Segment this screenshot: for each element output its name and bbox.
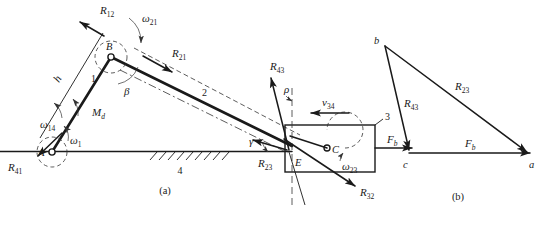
- omega-14-label: ω14: [40, 118, 56, 133]
- ground-hatching: [150, 152, 229, 160]
- link-1-label: 1: [91, 73, 96, 84]
- triangle-R23-label: R23: [454, 80, 469, 95]
- moment-Md-label: Md: [91, 106, 105, 121]
- joint-A-label: A: [37, 147, 45, 158]
- link-2-coupler: [111, 57, 292, 146]
- dimension-h-label: h: [51, 73, 64, 84]
- omega-21-label: ω21: [142, 12, 158, 27]
- force-R32-label: R32: [359, 186, 374, 201]
- velocity-v34-label: v34: [322, 96, 335, 111]
- force-R23-label: R23: [257, 157, 272, 172]
- beta-angle-label: β: [123, 85, 130, 97]
- omega-1-label: ω1: [70, 134, 82, 149]
- link-3-leader: [375, 119, 383, 125]
- omega-14-arrow: [54, 103, 62, 118]
- gamma-angle-label: γ: [249, 135, 254, 147]
- joint-A: [49, 149, 55, 155]
- force-Fb-label: Fb: [386, 133, 398, 148]
- triangle-vertex-a: a: [529, 159, 534, 170]
- triangle-vertex-b: b: [374, 35, 379, 46]
- rho-angle-arc: [286, 96, 292, 101]
- rho-angle-label: ρ: [283, 83, 289, 95]
- force-R21-arrow: [143, 56, 172, 72]
- link-4-label: 4: [178, 165, 183, 176]
- joint-C-label: C: [332, 144, 340, 155]
- joint-E-label: E: [294, 157, 302, 168]
- figure-canvas: 4 R12 R41 R21 B A: [0, 0, 550, 231]
- force-R41-label: R41: [7, 161, 22, 176]
- omega-21-arc: [95, 18, 141, 73]
- triangle-R43-label: R43: [403, 97, 418, 112]
- joint-B-label: B: [106, 41, 113, 52]
- link-2-label: 2: [202, 87, 207, 98]
- triangle-vertex-c: c: [403, 159, 408, 170]
- caption-a: (a): [159, 185, 171, 197]
- mechanism-force-diagram: 4 R12 R41 R21 B A: [0, 0, 550, 231]
- force-R12-arrow: [80, 22, 104, 36]
- force-R12-label: R12: [99, 4, 114, 19]
- triangle-Fb-label: Fb: [464, 137, 476, 152]
- force-R21-label: R21: [171, 47, 186, 62]
- force-R43-label: R43: [269, 60, 284, 75]
- link-1-crank: [52, 57, 111, 152]
- joint-B: [108, 54, 114, 60]
- link-3-label: 3: [385, 111, 390, 122]
- caption-b: (b): [452, 191, 465, 203]
- link-2-centerline: [120, 70, 288, 153]
